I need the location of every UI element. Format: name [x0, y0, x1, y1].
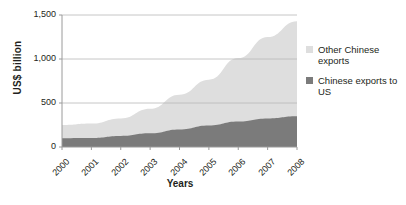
legend-swatch-other-chinese-exports	[306, 46, 313, 53]
legend-item: Other Chinese exports	[306, 44, 406, 66]
legend-item: Chinese exports to US	[306, 75, 406, 97]
legend-label: Chinese exports to US	[318, 75, 406, 97]
chart-container: US$ billion Years 05001,0001,500 2000200…	[0, 0, 406, 205]
legend-label: Other Chinese exports	[318, 44, 406, 66]
chart-legend: Other Chinese exports Chinese exports to…	[306, 44, 406, 106]
legend-swatch-chinese-exports-to-us	[306, 77, 313, 84]
